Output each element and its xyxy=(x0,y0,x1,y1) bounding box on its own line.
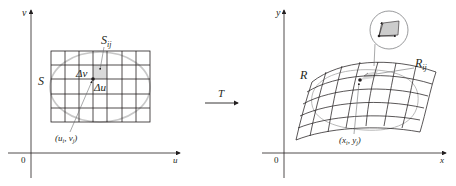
left-panel: v u 0 S Sij Δv Δu (ui, vj) xyxy=(8,7,180,178)
point-xy-leader xyxy=(354,83,359,134)
v-axis-label: v xyxy=(22,7,27,18)
x-axis-label: x xyxy=(439,155,444,165)
sij-label: Sij xyxy=(101,33,112,49)
subrectangle-sij xyxy=(93,65,107,79)
rij-label: Rij xyxy=(414,56,428,72)
u-axis-label: u xyxy=(173,155,178,165)
y-axis-label: y xyxy=(275,7,281,18)
delta-v-label: Δv xyxy=(75,67,87,79)
point-xi-yj xyxy=(358,78,362,82)
left-origin-label: 0 xyxy=(21,155,26,165)
region-s-label: S xyxy=(38,74,44,88)
transformation-t: T xyxy=(205,87,238,103)
change-of-variables-diagram: v u 0 S Sij Δv Δu (ui, vj) T xyxy=(0,0,456,186)
transformation-label: T xyxy=(218,87,225,99)
point-ui-vj-label: (ui, vj) xyxy=(55,133,77,144)
magnifier-inset xyxy=(370,11,408,66)
right-origin-label: 0 xyxy=(274,155,279,165)
region-r-label: R xyxy=(299,68,308,82)
xy-curvilinear-grid xyxy=(296,62,436,140)
point-xi-yj-label: (xi, yj) xyxy=(339,135,361,146)
right-panel: y x 0 R Rij (xi, yj) xyxy=(262,7,446,178)
point-leader xyxy=(70,81,92,132)
delta-u-label: Δu xyxy=(93,81,106,93)
